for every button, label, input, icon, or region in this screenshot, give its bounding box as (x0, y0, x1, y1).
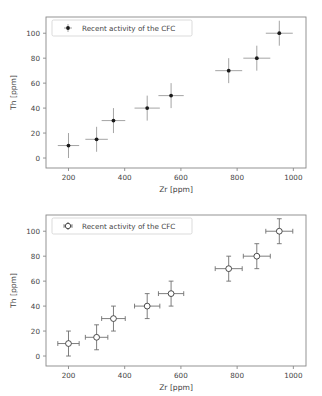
x-tick-label: 400 (118, 173, 132, 182)
data-point (58, 133, 79, 158)
scatter-marker (94, 334, 100, 340)
legend-marker (65, 223, 70, 228)
x-tick-label: 1000 (284, 371, 303, 380)
scatter-marker (112, 119, 116, 123)
y-tick-label: 60 (31, 277, 41, 286)
data-point (158, 83, 183, 108)
legend-marker (66, 26, 70, 30)
x-tick-label: 200 (62, 173, 76, 182)
plot-canvas-top: 2004006008001000020406080100Zr [ppm]Th [… (0, 0, 322, 198)
y-axis-label: Th [ppm] (9, 75, 18, 111)
y-tick-label: 40 (31, 302, 41, 311)
data-point (58, 331, 79, 356)
x-axis-label: Zr [ppm] (159, 383, 193, 392)
scatter-figure-top: 2004006008001000020406080100Zr [ppm]Th [… (0, 0, 322, 198)
x-tick-label: 600 (174, 371, 188, 380)
scatter-marker (277, 31, 281, 35)
plot-frame (46, 17, 306, 168)
x-tick-label: 800 (230, 173, 244, 182)
scatter-marker (226, 266, 232, 272)
legend-label: Recent activity of the CFC (82, 222, 175, 231)
scatter-marker (95, 137, 99, 141)
y-axis-label: Th [ppm] (9, 273, 18, 309)
data-point (266, 21, 293, 46)
scatter-marker (255, 56, 259, 60)
y-tick-label: 20 (31, 129, 41, 138)
scatter-figure-bottom: 2004006008001000020406080100Zr [ppm]Th [… (0, 198, 322, 396)
y-tick-label: 20 (31, 327, 41, 336)
data-point (243, 46, 270, 71)
data-point (85, 325, 107, 350)
data-point (266, 219, 293, 244)
data-point (158, 281, 183, 306)
legend-label: Recent activity of the CFC (82, 24, 175, 33)
y-tick-label: 0 (35, 352, 40, 361)
scatter-marker (111, 316, 117, 322)
scatter-marker (254, 253, 260, 259)
x-tick-label: 1000 (284, 173, 303, 182)
data-point (243, 244, 270, 269)
data-point (215, 58, 242, 83)
plot-frame (46, 215, 306, 366)
data-point (102, 306, 126, 331)
x-tick-label: 800 (230, 371, 244, 380)
scatter-marker (145, 106, 149, 110)
legend: Recent activity of the CFC (52, 20, 192, 36)
x-tick-label: 200 (62, 371, 76, 380)
data-point (135, 294, 160, 319)
data-point (135, 96, 160, 121)
y-tick-label: 40 (31, 104, 41, 113)
scatter-marker (66, 341, 72, 347)
scatter-marker (169, 94, 173, 98)
y-tick-label: 80 (31, 54, 41, 63)
data-point (85, 127, 107, 152)
x-tick-label: 400 (118, 371, 132, 380)
scatter-marker (67, 144, 71, 148)
legend: Recent activity of the CFC (52, 218, 192, 234)
y-tick-label: 80 (31, 252, 41, 261)
scatter-marker (168, 291, 174, 297)
y-tick-label: 0 (35, 154, 40, 163)
y-tick-label: 100 (26, 29, 40, 38)
y-tick-label: 60 (31, 79, 41, 88)
x-tick-label: 600 (174, 173, 188, 182)
scatter-marker (227, 69, 231, 73)
y-tick-label: 100 (26, 227, 40, 236)
plot-canvas-bottom: 2004006008001000020406080100Zr [ppm]Th [… (0, 198, 322, 396)
scatter-marker (144, 303, 150, 309)
x-axis-label: Zr [ppm] (159, 185, 193, 194)
scatter-marker (276, 228, 282, 234)
data-point (102, 108, 126, 133)
data-point (215, 256, 242, 281)
